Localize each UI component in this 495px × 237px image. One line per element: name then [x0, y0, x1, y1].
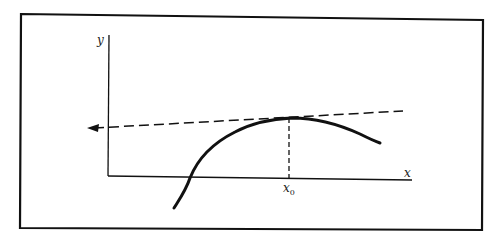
x-axis-label: x: [404, 166, 411, 180]
y-axis: [108, 35, 109, 176]
x-axis: [108, 176, 412, 180]
x0-label-sub: 0: [290, 188, 295, 197]
frame: [20, 14, 483, 230]
curve: [174, 118, 380, 208]
x0-label: x0: [283, 181, 295, 197]
y-axis-label: y: [96, 33, 104, 47]
diagram-canvas: y x x0: [0, 0, 495, 237]
arrow-left-icon: [87, 124, 99, 132]
